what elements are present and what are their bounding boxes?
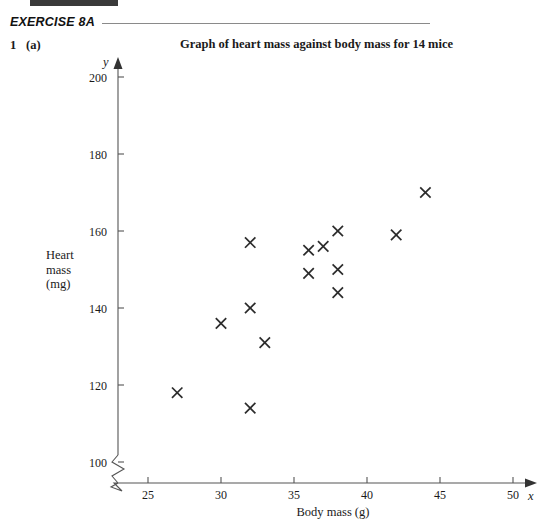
data-point-marker	[318, 241, 328, 251]
data-point-marker	[303, 268, 313, 278]
data-point-marker	[391, 230, 401, 240]
y-axis-ticks: 100120140160180200	[89, 71, 124, 470]
data-point-marker	[172, 388, 182, 398]
data-point-marker	[216, 318, 226, 328]
data-point-marker	[303, 245, 313, 255]
x-tick-label: 40	[361, 488, 373, 502]
data-point-marker	[333, 264, 343, 274]
data-point-marker	[245, 237, 255, 247]
y-tick-label: 140	[89, 302, 107, 316]
y-axis-arrow-icon	[114, 57, 123, 69]
x-tick-label: 45	[434, 488, 446, 502]
axes	[111, 57, 537, 491]
data-point-marker	[245, 403, 255, 413]
data-point-marker	[333, 287, 343, 297]
data-point-marker	[333, 226, 343, 236]
y-tick-label: 200	[89, 71, 107, 85]
data-point-marker	[245, 303, 255, 313]
data-point-marker	[260, 337, 270, 347]
x-axis-ticks: 253035404550	[142, 477, 519, 502]
x-axis-arrow-icon	[525, 479, 537, 488]
y-axis-variable-label: y	[101, 55, 109, 69]
x-tick-label: 25	[142, 488, 154, 502]
y-tick-label: 120	[89, 379, 107, 393]
x-tick-label: 30	[215, 488, 227, 502]
data-point-marker	[420, 187, 430, 197]
x-tick-label: 35	[288, 488, 300, 502]
axis-break-icon	[111, 455, 133, 491]
x-tick-label: 50	[507, 488, 519, 502]
chart-svg: 100120140160180200 253035404550 y x Body…	[0, 0, 557, 532]
data-points	[172, 187, 431, 413]
scatter-plot: 100120140160180200 253035404550 y x Body…	[0, 0, 557, 532]
y-tick-label: 160	[89, 225, 107, 239]
x-axis-variable-label: x	[527, 489, 534, 503]
y-tick-label: 100	[89, 456, 107, 470]
x-axis-label: Body mass (g)	[297, 505, 370, 519]
y-tick-label: 180	[89, 148, 107, 162]
